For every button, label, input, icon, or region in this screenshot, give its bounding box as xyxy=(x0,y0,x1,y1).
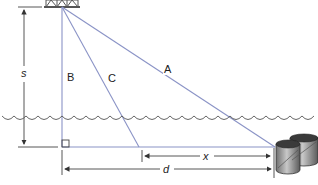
label-x: x xyxy=(202,151,210,162)
label-B: B xyxy=(66,72,75,83)
label-d: d xyxy=(162,164,170,175)
barrels-icon xyxy=(276,134,318,174)
sight-lines xyxy=(62,7,275,147)
oil-platform-truss-icon xyxy=(44,0,80,7)
diagram-svg xyxy=(0,0,318,185)
line-A xyxy=(62,7,275,147)
label-C: C xyxy=(107,73,117,84)
right-angle-marker xyxy=(62,140,69,147)
label-s: s xyxy=(20,68,28,79)
label-A: A xyxy=(163,64,172,75)
water-surface-waves xyxy=(2,116,314,120)
diagram-canvas: s B C A x d xyxy=(0,0,318,185)
